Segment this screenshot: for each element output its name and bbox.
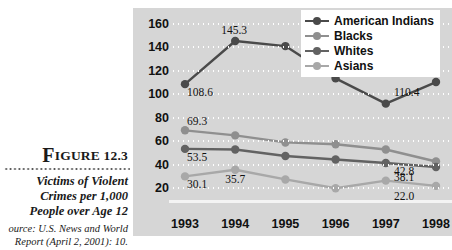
data-point-american-indians-1994 xyxy=(231,37,239,45)
caption-line-1: Victims of Violent xyxy=(0,174,128,189)
y-axis-tick-80: 80 xyxy=(137,112,169,125)
x-axis-tick-1997: 1997 xyxy=(372,218,400,231)
legend-marker-icon xyxy=(305,15,329,27)
y-axis-tick-20: 20 xyxy=(137,182,169,195)
figure-caption-text: Victims of Violent Crimes per 1,000 Peop… xyxy=(0,174,128,219)
source-line-2: Report (April 2, 2001): 10. xyxy=(0,235,128,248)
legend-label: Asians xyxy=(334,60,373,72)
data-point-whites-1994 xyxy=(231,145,239,153)
y-axis-tick-140: 140 xyxy=(137,41,169,54)
legend-marker-icon xyxy=(305,30,329,42)
figure-number-heading: FIGURE 12.3 xyxy=(0,145,128,165)
chart-panel: 20406080100120140160 108.6145.3110.469.3… xyxy=(133,8,452,236)
gridline xyxy=(171,117,450,119)
y-axis-tick-60: 60 xyxy=(137,135,169,148)
value-label-asians-1993: 30.1 xyxy=(187,179,207,191)
y-axis-tick-labels: 20406080100120140160 xyxy=(133,12,169,200)
gridline xyxy=(171,187,450,189)
y-axis-tick-100: 100 xyxy=(137,88,169,101)
y-axis-tick-120: 120 xyxy=(137,65,169,78)
caption-line-3: People over Age 12 xyxy=(0,204,128,219)
legend-marker-icon xyxy=(305,60,329,72)
legend-label: Blacks xyxy=(334,30,373,42)
data-point-american-indians-1997 xyxy=(382,99,390,107)
data-point-blacks-1994 xyxy=(231,131,239,139)
value-label-american-indians-1998: 110.4 xyxy=(394,87,419,99)
legend-item-blacks[interactable]: Blacks xyxy=(305,28,434,43)
figure-caption-block: FIGURE 12.3 Victims of Violent Crimes pe… xyxy=(0,145,134,248)
value-label-asians-1994: 35.7 xyxy=(225,174,245,186)
source-line-1: ource: U.S. News and World xyxy=(0,222,128,235)
value-label-asians-1998: 22.0 xyxy=(394,191,414,203)
figure-source-note: ource: U.S. News and World Report (April… xyxy=(0,222,128,248)
legend-marker-icon xyxy=(305,45,329,57)
legend-label: American Indians xyxy=(334,15,434,27)
value-label-blacks-1993: 69.3 xyxy=(187,116,207,128)
legend-label: Whites xyxy=(334,45,373,57)
data-point-whites-1996 xyxy=(331,155,339,163)
caption-dotted-divider xyxy=(4,168,130,170)
figure-number-label: IGURE 12.3 xyxy=(55,148,128,163)
value-label-whites-1998: 38.1 xyxy=(394,172,414,184)
x-axis-tick-1998: 1998 xyxy=(422,218,450,231)
figure-dropcap-letter: F xyxy=(42,144,54,166)
x-axis-tick-1995: 1995 xyxy=(271,218,299,231)
legend-item-whites[interactable]: Whites xyxy=(305,43,434,58)
data-point-american-indians-1998 xyxy=(432,78,440,86)
data-point-asians-1997 xyxy=(382,176,390,184)
data-point-whites-1995 xyxy=(281,152,289,160)
chart-legend: American IndiansBlacksWhitesAsians xyxy=(301,10,440,77)
value-label-american-indians-1994: 145.3 xyxy=(221,25,247,37)
legend-item-asians[interactable]: Asians xyxy=(305,58,434,73)
data-point-asians-1995 xyxy=(281,175,289,183)
gridline xyxy=(171,140,450,142)
legend-item-american-indians[interactable]: American Indians xyxy=(305,13,434,28)
value-label-whites-1993: 53.5 xyxy=(187,152,207,164)
y-axis-tick-160: 160 xyxy=(137,18,169,31)
y-axis-tick-40: 40 xyxy=(137,159,169,172)
value-label-american-indians-1993: 108.6 xyxy=(187,87,213,99)
x-axis-tick-1994: 1994 xyxy=(221,218,249,231)
x-axis-tick-1996: 1996 xyxy=(322,218,350,231)
data-point-blacks-1997 xyxy=(382,145,390,153)
x-axis-tick-1993: 1993 xyxy=(171,218,199,231)
caption-line-2: Crimes per 1,000 xyxy=(0,189,128,204)
